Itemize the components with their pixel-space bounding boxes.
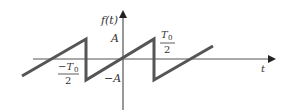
y-axis-label: f(t) xyxy=(100,14,118,27)
sawtooth-diagram: f(t) t A −A −T 0 2 T 0 2 xyxy=(0,0,292,112)
pos-half-period-label: T 0 2 xyxy=(160,29,175,55)
amplitude-neg-label: −A xyxy=(104,72,121,85)
svg-text:0: 0 xyxy=(74,66,78,74)
svg-text:2: 2 xyxy=(164,44,170,55)
neg-half-period-label: −T 0 2 xyxy=(58,61,79,86)
svg-text:2: 2 xyxy=(65,75,71,86)
x-axis-label: t xyxy=(261,63,266,74)
amplitude-pos-label: A xyxy=(110,32,119,45)
svg-text:0: 0 xyxy=(168,34,172,42)
svg-text:−T: −T xyxy=(58,61,74,72)
